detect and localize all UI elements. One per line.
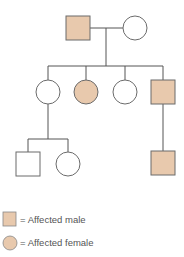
unaffected-female-III-2	[56, 152, 80, 176]
unaffected-female-II-1	[36, 80, 60, 104]
legend-affected-male-icon	[3, 212, 16, 226]
legend-affected-female-label: = Affected female	[20, 237, 94, 248]
legend: = Affected male = Affected female	[3, 212, 94, 250]
generation-2	[36, 80, 175, 104]
unaffected-female-II-3	[113, 80, 137, 104]
affected-male-I-1	[66, 16, 90, 40]
unaffected-female-I-2	[123, 16, 147, 40]
generation-3	[16, 151, 175, 176]
affected-male-II-4	[151, 80, 175, 104]
affected-female-II-2	[74, 80, 98, 104]
legend-affected-female-icon	[3, 236, 17, 250]
legend-affected-male-label: = Affected male	[20, 214, 86, 225]
affected-male-III-3	[151, 151, 175, 175]
unaffected-male-III-1	[16, 152, 40, 176]
pedigree-diagram: = Affected male = Affected female	[0, 0, 184, 257]
